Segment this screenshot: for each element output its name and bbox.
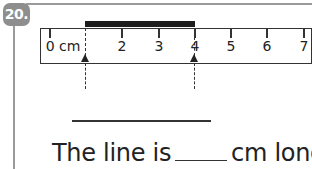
tick-3 bbox=[158, 29, 160, 38]
tick-label-2: 2 bbox=[118, 38, 127, 54]
frame-left-border bbox=[13, 24, 15, 169]
tick-label-5: 5 bbox=[227, 38, 236, 54]
answer-sentence: The line iscm long. bbox=[52, 140, 312, 166]
dashed-marker-start bbox=[85, 28, 86, 56]
tick-label-0: 0 cm bbox=[46, 38, 81, 54]
dashed-marker-end-below bbox=[194, 63, 195, 89]
measured-line bbox=[85, 21, 195, 27]
tick-label-4: 4 bbox=[191, 38, 200, 54]
tick-label-6: 6 bbox=[263, 38, 272, 54]
question-number-badge: 20. bbox=[3, 3, 30, 26]
frame-top-border bbox=[26, 3, 312, 5]
length-blank-input[interactable] bbox=[175, 140, 227, 161]
sentence-prefix: The line is bbox=[52, 139, 171, 167]
tick-7 bbox=[303, 29, 305, 38]
tick-6 bbox=[266, 29, 268, 38]
tick-label-7: 7 bbox=[300, 38, 309, 54]
dashed-marker-start-below bbox=[85, 63, 86, 89]
tick-0 bbox=[49, 29, 51, 38]
arrow-up-icon bbox=[190, 54, 198, 62]
tick-2 bbox=[121, 29, 123, 38]
sentence-suffix: cm long. bbox=[231, 139, 312, 167]
arrow-up-icon bbox=[81, 54, 89, 62]
tick-label-3: 3 bbox=[155, 38, 164, 54]
answer-draw-line[interactable] bbox=[72, 120, 211, 122]
tick-5 bbox=[230, 29, 232, 38]
